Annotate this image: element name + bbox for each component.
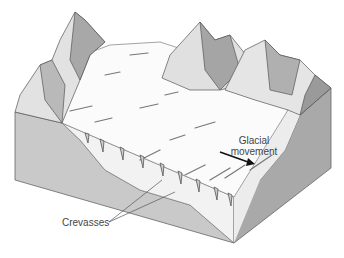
glacial-movement-label: Glacial movement xyxy=(224,135,284,157)
crevasses-label: Crevasses xyxy=(62,217,109,228)
glacier-diagram: Glacial movement Crevasses xyxy=(0,0,344,258)
label-line-2: movement xyxy=(224,146,284,157)
label-line-1: Glacial xyxy=(224,135,284,146)
block-diagram-graphic xyxy=(0,0,344,258)
